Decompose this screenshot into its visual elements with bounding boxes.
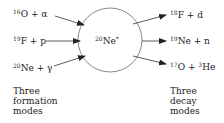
caption-line: formation bbox=[13, 96, 58, 106]
mass-number: 19 bbox=[13, 35, 21, 42]
caption-line: Three bbox=[13, 86, 58, 96]
formation-arrow-3 bbox=[54, 56, 85, 66]
decay-reaction-3: 17O + 3He bbox=[170, 62, 215, 72]
formation-arrow-1 bbox=[55, 16, 84, 25]
element-symbol: Ne bbox=[21, 63, 34, 73]
reaction-partner: + p bbox=[27, 36, 46, 46]
mass-number: 19 bbox=[170, 35, 178, 42]
nucleus-symbol: Ne bbox=[103, 36, 116, 46]
nucleus-label: 20Ne* bbox=[95, 36, 119, 46]
nucleus-mass: 20 bbox=[95, 35, 103, 42]
reaction-partner: + γ bbox=[34, 63, 53, 73]
nucleus-state: * bbox=[116, 35, 119, 42]
formation-reaction-3: 20Ne + γ bbox=[13, 63, 53, 73]
reaction-partner: + α bbox=[28, 9, 47, 19]
reaction-partner: + bbox=[185, 62, 198, 72]
mass-number: 20 bbox=[13, 62, 21, 69]
reaction-partner: + n bbox=[191, 36, 210, 46]
formation-reaction-2: 19F + p bbox=[13, 36, 46, 46]
caption-line: modes bbox=[170, 106, 200, 116]
caption-line: decay bbox=[170, 96, 200, 106]
mass-number: 18 bbox=[170, 9, 178, 16]
element-symbol-2: He bbox=[202, 62, 215, 72]
formation-reaction-1: 16O + α bbox=[13, 9, 47, 19]
caption-line: modes bbox=[13, 106, 58, 116]
mass-number: 16 bbox=[13, 8, 21, 15]
decay-reaction-1: 18F + d bbox=[170, 10, 203, 20]
element-symbol: O bbox=[21, 9, 28, 19]
element-symbol: Ne bbox=[178, 36, 191, 46]
decay-caption: Three decay modes bbox=[170, 86, 200, 116]
element-symbol: O bbox=[178, 62, 185, 72]
caption-line: Three bbox=[170, 86, 200, 96]
decay-arrow-1 bbox=[133, 15, 166, 24]
decay-arrow-3 bbox=[133, 56, 166, 64]
mass-number: 17 bbox=[170, 61, 178, 68]
reaction-partner: + d bbox=[184, 10, 203, 20]
formation-caption: Three formation modes bbox=[13, 86, 58, 116]
decay-reaction-2: 19Ne + n bbox=[170, 36, 210, 46]
